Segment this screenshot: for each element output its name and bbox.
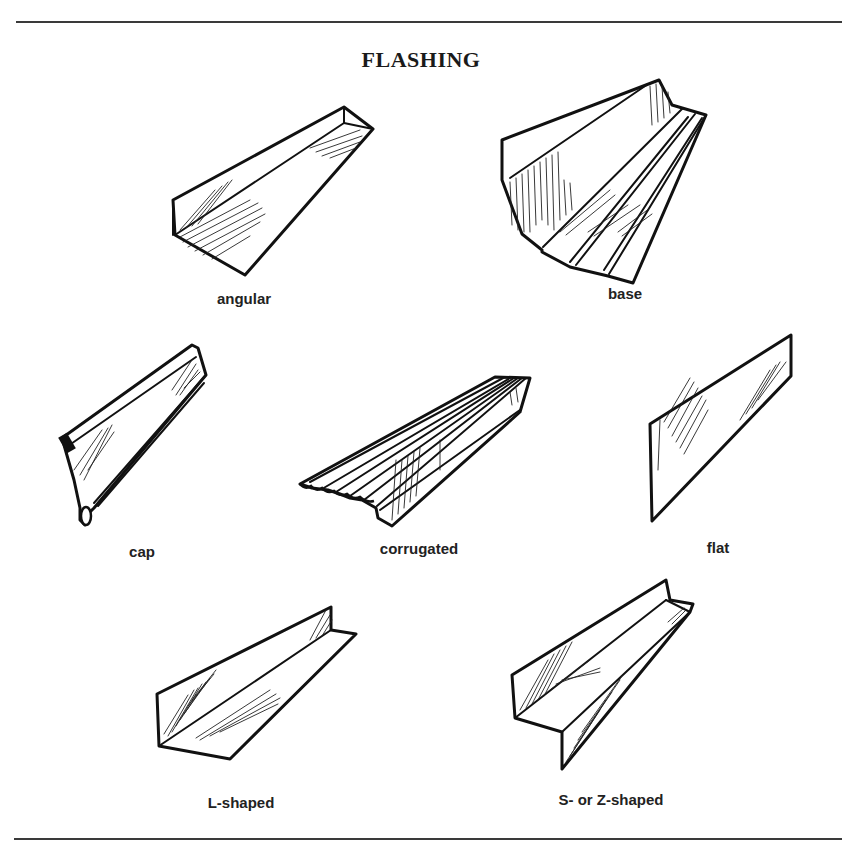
label-s-z-shaped: S- or Z-shaped	[558, 791, 663, 808]
bottom-rule	[14, 838, 842, 840]
s-z-shaped-flashing-illustration	[0, 0, 842, 864]
